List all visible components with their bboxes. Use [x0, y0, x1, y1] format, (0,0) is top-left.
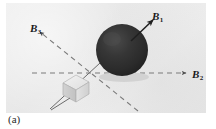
vector-label-b1: B1 [152, 11, 163, 22]
figure-illustration [6, 3, 206, 113]
cube [63, 75, 89, 102]
vector-label-b3: B3 [30, 23, 41, 34]
figure-root: B1 B2 B3 (a) [0, 0, 216, 129]
figure-caption: (a) [8, 114, 20, 125]
figure-panel: B1 B2 B3 [6, 3, 206, 113]
vector-label-b2: B2 [192, 69, 203, 80]
